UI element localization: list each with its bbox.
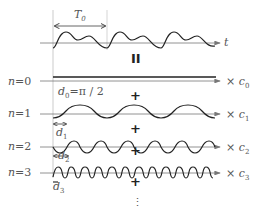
period-label: T0 [74,8,86,23]
svg-text:× c0: × c0 [226,75,249,90]
svg-text:× c1: × c1 [226,108,249,123]
svg-text:n=0: n=0 [8,75,31,88]
plus-symbol: + [130,143,141,158]
svg-text:× c2: × c2 [226,141,249,156]
ellipsis: ⋮ [132,196,143,209]
row-n1: n=1 × c1 d1 [8,105,249,141]
svg-text:d3: d3 [53,180,65,195]
svg-text:n=2: n=2 [8,140,31,153]
svg-text:d0=π / 2: d0=π / 2 [58,85,104,100]
svg-text:d1: d1 [56,126,68,141]
plus-symbol: + [130,88,141,103]
row-n2: n=2 × c2 d2 [8,140,249,164]
composite-signal: t [40,32,229,49]
equals-symbol: II [131,51,141,66]
svg-text:n=1: n=1 [8,107,31,120]
row-n3: n=3 × c3 d3 [8,166,249,195]
period-dimension: T0 [55,8,105,26]
row-n0: n=0 × c0 d0=π / 2 [8,75,249,100]
svg-text:d2: d2 [58,149,70,164]
plus-symbol: + [130,174,141,189]
fourier-decomposition-diagram: T0 t II n=0 × c0 d0=π / 2 + n=1 × c1 d1 … [0,0,263,213]
svg-text:n=3: n=3 [8,166,31,179]
svg-text:× c3: × c3 [226,167,249,182]
time-axis-label: t [224,36,229,49]
plus-symbol: + [130,121,141,136]
